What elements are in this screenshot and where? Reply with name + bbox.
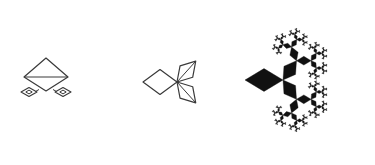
fractal-rhombus-d7 — [304, 114, 305, 115]
fractal-rhombus-d6 — [276, 120, 278, 121]
fractal-rhombus-d7 — [277, 35, 278, 36]
fractal-rhombus-d7 — [326, 50, 327, 51]
fractal-rhombus-d7 — [281, 34, 282, 35]
fractal-rhombus-d7 — [326, 108, 327, 109]
fractal-rhombus-d7 — [289, 124, 290, 125]
fractal-rhombus-d7 — [273, 110, 274, 111]
fractal-rhombus-d7 — [306, 118, 307, 119]
figure-canvas — [0, 0, 375, 165]
fractal-rhombus-d6 — [309, 47, 311, 48]
fractal-rhombus-d7 — [319, 84, 320, 85]
fractal-rhombus-d7 — [323, 47, 324, 48]
fractal-rhombus-d7 — [322, 58, 323, 59]
fractal-rhombus-d7 — [289, 31, 290, 32]
fractal-rhombus-d7 — [288, 34, 289, 35]
fractal-rhombus-d7 — [291, 30, 292, 31]
fractal-rhombus-d7 — [319, 45, 320, 46]
fractal-rhombus-d7 — [323, 97, 324, 98]
canvas-background — [0, 0, 375, 165]
fractal-rhombus-d7 — [326, 56, 327, 57]
fractal-rhombus-d7 — [296, 131, 297, 132]
fractal-rhombus-d7 — [322, 86, 323, 87]
fractal-rhombus-d6 — [290, 33, 292, 34]
fractal-rhombus-d7 — [277, 124, 278, 125]
fractal-rhombus-d7 — [295, 130, 296, 131]
fractal-rhombus-d7 — [319, 114, 320, 115]
fractal-rhombus-d7 — [316, 81, 317, 82]
fractal-rhombus-d7 — [319, 44, 320, 45]
fractal-rhombus-d7 — [322, 63, 323, 64]
fractal-rhombus-d7 — [304, 34, 305, 35]
fractal-rhombus-d7 — [326, 95, 327, 96]
fractal-rhombus-d7 — [302, 44, 303, 45]
fractal-rhombus-d6 — [277, 52, 279, 53]
fractal-rhombus-d7 — [306, 123, 307, 124]
fractal-rhombus-d7 — [291, 129, 292, 130]
fractal-rhombus-d7 — [285, 37, 286, 38]
fractal-rhombus-d7 — [323, 62, 324, 63]
fractal-rhombus-d7 — [309, 83, 310, 84]
fractal-rhombus-d7 — [274, 115, 275, 116]
fractal-figure — [0, 0, 375, 165]
fractal-rhombus-d7 — [310, 76, 311, 77]
fractal-rhombus-d7 — [319, 83, 320, 84]
fractal-rhombus-d7 — [309, 45, 310, 46]
fractal-rhombus-d7 — [302, 125, 303, 126]
fractal-rhombus-d7 — [323, 101, 324, 102]
fractal-rhombus-d7 — [326, 104, 327, 105]
fractal-rhombus-d7 — [306, 116, 307, 117]
fractal-rhombus-d7 — [326, 103, 327, 104]
fractal-rhombus-d6 — [273, 111, 275, 112]
fractal-rhombus-d7 — [282, 33, 283, 34]
fractal-rhombus-d7 — [323, 86, 324, 87]
fractal-rhombus-d7 — [326, 55, 327, 56]
fractal-rhombus-d7 — [296, 28, 297, 29]
fractal-rhombus-d6 — [309, 73, 311, 74]
fractal-rhombus-d7 — [309, 110, 310, 111]
fractal-rhombus-d7 — [285, 35, 286, 36]
fractal-rhombus-d7 — [275, 39, 276, 40]
fractal-rhombus-d7 — [295, 29, 296, 30]
fractal-rhombus-d7 — [289, 128, 290, 129]
fractal-rhombus-d7 — [326, 64, 327, 65]
fractal-rhombus-d7 — [314, 117, 315, 118]
fractal-rhombus-d7 — [299, 129, 300, 130]
fractal-rhombus-d7 — [281, 125, 282, 126]
fractal-rhombus-d7 — [316, 42, 317, 43]
fractal-rhombus-d7 — [306, 42, 307, 43]
fractal-rhombus-d7 — [319, 75, 320, 76]
fractal-rhombus-d7 — [285, 122, 286, 123]
fractal-rhombus-d7 — [314, 81, 315, 82]
fractal-rhombus-d7 — [302, 115, 303, 116]
fractal-rhombus-d7 — [304, 125, 305, 126]
fractal-rhombus-d7 — [326, 89, 327, 90]
fractal-rhombus-d7 — [273, 114, 274, 115]
fractal-rhombus-d7 — [274, 44, 275, 45]
fractal-rhombus-d7 — [306, 122, 307, 123]
fractal-rhombus-d7 — [308, 48, 309, 49]
fractal-rhombus-d6 — [309, 112, 311, 113]
fractal-rhombus-d7 — [272, 48, 273, 49]
fractal-rhombus-d7 — [309, 72, 310, 73]
fractal-rhombus-d7 — [322, 111, 323, 112]
fractal-rhombus-d7 — [310, 44, 311, 45]
fractal-rhombus-d7 — [302, 34, 303, 35]
fractal-rhombus-d7 — [326, 110, 327, 111]
fractal-rhombus-d7 — [326, 49, 327, 50]
fractal-rhombus-d7 — [323, 73, 324, 74]
fractal-rhombus-d7 — [280, 53, 281, 54]
fractal-rhombus-d7 — [308, 87, 309, 88]
fractal-rhombus-d7 — [306, 41, 307, 42]
fractal-rhombus-d7 — [275, 36, 276, 37]
fractal-rhombus-d7 — [326, 88, 327, 89]
fractal-rhombus-d7 — [323, 112, 324, 113]
fractal-rhombus-d7 — [281, 107, 282, 108]
fractal-rhombus-d7 — [326, 94, 327, 95]
fractal-rhombus-d7 — [316, 78, 317, 79]
fractal-rhombus-d7 — [322, 48, 323, 49]
fractal-rhombus-d6 — [277, 107, 279, 108]
fractal-rhombus-d7 — [306, 37, 307, 38]
fractal-rhombus-d7 — [323, 58, 324, 59]
fractal-rhombus-d7 — [309, 76, 310, 77]
fractal-rhombus-d6 — [273, 47, 275, 48]
